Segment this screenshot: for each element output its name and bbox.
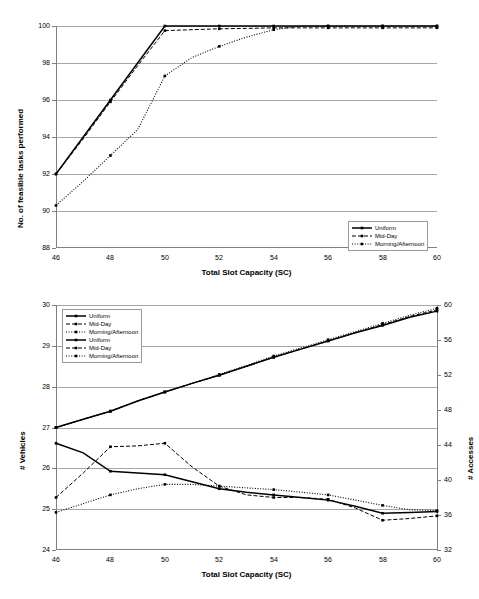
legend-item-label: Mid-Day [89, 320, 111, 328]
legend-item-label: Uniform [89, 336, 110, 344]
x-tick-label: 60 [422, 254, 452, 261]
legend-item-label: Uniform [89, 312, 110, 320]
top-chart-x-axis-title: Total Slot Capacity (SC) [56, 268, 437, 277]
legend-item-label: Morning/Afternoon [89, 352, 138, 360]
legend-item-label: Morning/Afternoon [375, 240, 424, 248]
y-tick-label: 26 [0, 464, 50, 471]
right-y-tick-label: 44 [444, 441, 452, 448]
gridline [57, 428, 437, 429]
y-tick-label: 28 [0, 383, 50, 390]
y-tick-mark [52, 248, 56, 249]
y-tick-mark [52, 468, 56, 469]
x-tick-label: 58 [368, 254, 398, 261]
legend-item[interactable]: Morning/Afternoon [66, 328, 138, 336]
right-y-tick-mark [437, 445, 441, 446]
legend-line-swatch-icon [352, 232, 372, 240]
legend-line-swatch-icon [352, 240, 372, 248]
legend-item-label: Uniform [375, 224, 396, 232]
gridline [57, 174, 437, 175]
gridline [57, 468, 437, 469]
bottom-chart-x-axis-title: Total Slot Capacity (SC) [56, 570, 437, 579]
y-tick-label: 90 [0, 207, 50, 214]
right-y-tick-label: 48 [444, 406, 452, 413]
legend-item[interactable]: Morning/Afternoon [352, 240, 424, 248]
legend-item[interactable]: Uniform [66, 312, 138, 320]
bottom-chart-right-axis-line [437, 305, 438, 550]
legend-line-swatch-icon [66, 336, 86, 344]
legend-line-swatch-icon [66, 352, 86, 360]
gridline [57, 137, 437, 138]
x-tick-label: 56 [313, 556, 343, 563]
right-y-tick-label: 40 [444, 476, 452, 483]
y-tick-label: 29 [0, 342, 50, 349]
y-tick-label: 24 [0, 546, 50, 553]
right-y-tick-mark [437, 550, 441, 551]
x-tick-label: 50 [150, 556, 180, 563]
legend-item[interactable]: Mid-Day [66, 320, 138, 328]
bottom-chart-legend: UniformMid-DayMorning/AfternoonUniformMi… [62, 309, 142, 363]
right-y-tick-mark [437, 375, 441, 376]
x-tick-label: 48 [95, 556, 125, 563]
x-tick-label: 54 [259, 556, 289, 563]
gridline [57, 305, 437, 306]
legend-item[interactable]: Mid-Day [352, 232, 424, 240]
top-chart-legend: UniformMid-DayMorning/Afternoon [348, 221, 428, 251]
legend-line-swatch-icon [66, 320, 86, 328]
y-tick-label: 25 [0, 505, 50, 512]
x-tick-label: 46 [41, 254, 71, 261]
gridline [57, 211, 437, 212]
gridline [57, 63, 437, 64]
x-tick-label: 60 [422, 556, 452, 563]
legend-item[interactable]: Morning/Afternoon [66, 352, 138, 360]
y-tick-label: 96 [0, 96, 50, 103]
bottom-chart-right-y-axis-title: # Accesses [466, 437, 475, 480]
legend-item-label: Mid-Day [375, 232, 397, 240]
y-tick-mark [52, 305, 56, 306]
right-y-tick-mark [437, 480, 441, 481]
right-y-tick-label: 52 [444, 371, 452, 378]
y-tick-mark [52, 428, 56, 429]
x-tick-label: 52 [204, 254, 234, 261]
legend-line-swatch-icon [66, 312, 86, 320]
legend-line-swatch-icon [352, 224, 372, 232]
x-tick-label: 58 [368, 556, 398, 563]
y-tick-mark [52, 63, 56, 64]
legend-line-swatch-icon [66, 328, 86, 336]
y-tick-mark [52, 174, 56, 175]
y-tick-label: 92 [0, 170, 50, 177]
y-tick-label: 27 [0, 424, 50, 431]
x-tick-label: 56 [313, 254, 343, 261]
x-tick-label: 46 [41, 556, 71, 563]
y-tick-mark [52, 26, 56, 27]
x-tick-label: 50 [150, 254, 180, 261]
y-tick-mark [52, 137, 56, 138]
right-y-tick-label: 36 [444, 511, 452, 518]
y-tick-mark [52, 346, 56, 347]
y-tick-label: 98 [0, 59, 50, 66]
legend-line-swatch-icon [66, 344, 86, 352]
y-tick-mark [52, 100, 56, 101]
y-tick-label: 30 [0, 301, 50, 308]
y-tick-label: 100 [0, 22, 50, 29]
x-tick-label: 54 [259, 254, 289, 261]
bottom-chart-panel: # Vehicles # Accesses 30292827262524 605… [0, 295, 479, 599]
gridline [57, 26, 437, 27]
y-tick-label: 94 [0, 133, 50, 140]
gridline [57, 509, 437, 510]
top-chart-panel: No. of feasible tasks performed 10098969… [0, 0, 479, 300]
legend-item[interactable]: Uniform [352, 224, 424, 232]
right-y-tick-label: 56 [444, 336, 452, 343]
y-tick-mark [52, 509, 56, 510]
gridline [57, 100, 437, 101]
top-chart-plot-area [56, 26, 437, 248]
y-tick-mark [52, 550, 56, 551]
right-y-tick-label: 32 [444, 546, 452, 553]
y-tick-label: 88 [0, 244, 50, 251]
y-tick-mark [52, 211, 56, 212]
right-y-tick-mark [437, 515, 441, 516]
legend-item[interactable]: Mid-Day [66, 344, 138, 352]
legend-item[interactable]: Uniform [66, 336, 138, 344]
y-tick-mark [52, 387, 56, 388]
gridline [57, 387, 437, 388]
right-y-tick-label: 60 [444, 301, 452, 308]
